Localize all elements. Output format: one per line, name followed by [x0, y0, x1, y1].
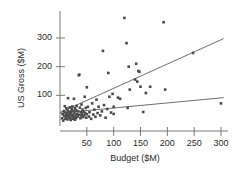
data-point — [149, 85, 152, 88]
data-point — [75, 105, 78, 108]
data-point — [108, 95, 111, 98]
data-point — [102, 50, 105, 53]
data-point — [83, 95, 86, 98]
data-point — [91, 102, 94, 105]
data-point — [112, 113, 115, 116]
data-point — [86, 113, 89, 116]
data-point — [71, 105, 74, 108]
data-point — [220, 102, 223, 105]
data-point — [106, 108, 109, 111]
data-point — [162, 21, 165, 24]
data-point — [126, 107, 129, 110]
data-point — [99, 114, 102, 117]
data-point — [77, 110, 80, 113]
data-point — [138, 71, 141, 74]
data-point — [119, 97, 122, 100]
data-point — [107, 72, 110, 75]
data-point — [111, 93, 114, 96]
data-point — [123, 17, 126, 20]
x-axis-title: Budget ($M) — [90, 153, 180, 163]
data-point — [101, 110, 104, 113]
data-point — [83, 114, 86, 117]
data-point — [78, 73, 81, 76]
data-point — [104, 116, 107, 119]
data-point — [85, 116, 88, 119]
steep-fit-line — [60, 39, 224, 113]
x-tick-label: 100 — [102, 138, 126, 148]
data-point — [80, 103, 83, 106]
data-point — [79, 106, 82, 109]
data-point — [92, 113, 95, 116]
data-point — [112, 106, 115, 109]
data-point — [142, 111, 145, 114]
y-tick-label: 100 — [30, 89, 52, 99]
data-point — [128, 88, 131, 91]
data-point — [110, 111, 113, 114]
x-tick-label: 150 — [129, 138, 153, 148]
data-point — [103, 104, 106, 107]
y-tick-label: 300 — [30, 32, 52, 42]
data-point — [66, 118, 69, 121]
data-point — [135, 63, 138, 66]
data-point — [145, 92, 148, 95]
data-point — [139, 85, 142, 88]
data-point — [72, 114, 75, 117]
data-point — [73, 112, 76, 115]
data-point — [164, 88, 167, 91]
data-point — [86, 86, 89, 89]
data-point — [125, 42, 128, 45]
x-tick-label: 250 — [182, 138, 206, 148]
data-point — [127, 65, 130, 68]
data-point — [90, 118, 93, 121]
data-point — [67, 97, 70, 100]
data-point — [87, 106, 90, 109]
data-point — [94, 116, 97, 119]
data-point — [95, 98, 98, 101]
data-point — [97, 106, 100, 109]
x-tick-label: 300 — [209, 138, 233, 148]
x-tick-label: 50 — [75, 138, 99, 148]
data-point — [93, 108, 96, 111]
data-point — [136, 80, 139, 83]
data-point — [79, 117, 82, 120]
data-point — [73, 97, 76, 100]
data-point — [96, 112, 99, 115]
data-point — [192, 52, 195, 55]
y-axis-title: US Gross ($M) — [16, 48, 26, 108]
data-point — [88, 111, 91, 114]
y-tick-label: 200 — [30, 61, 52, 71]
scatter-chart-figure: 100200300 50100150200250300 US Gross ($M… — [0, 0, 244, 173]
data-point — [61, 117, 64, 120]
data-point-series — [61, 17, 222, 122]
x-tick-label: 200 — [155, 138, 179, 148]
regression-lines — [60, 39, 224, 114]
data-point — [88, 115, 91, 118]
